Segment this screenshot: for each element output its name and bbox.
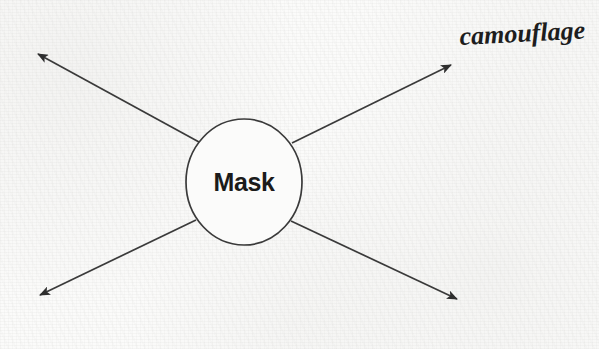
arrow-bottom-left-line: [40, 220, 196, 295]
annotation-camouflage-label: camouflage: [459, 15, 586, 51]
arrow-top-right-line: [292, 65, 451, 143]
diagram-svg: Mask camouflage: [0, 0, 599, 349]
arrow-top-left-line: [38, 54, 199, 142]
center-node-mask[interactable]: Mask: [186, 119, 302, 245]
arrow-top-left: [38, 54, 199, 142]
arrow-bottom-right-line: [291, 221, 457, 299]
diagram-canvas: Mask camouflage: [0, 0, 599, 349]
arrow-bottom-left: [40, 220, 196, 295]
center-node-label: Mask: [214, 168, 275, 196]
arrow-top-right: [292, 65, 451, 143]
arrow-bottom-right: [291, 221, 457, 299]
